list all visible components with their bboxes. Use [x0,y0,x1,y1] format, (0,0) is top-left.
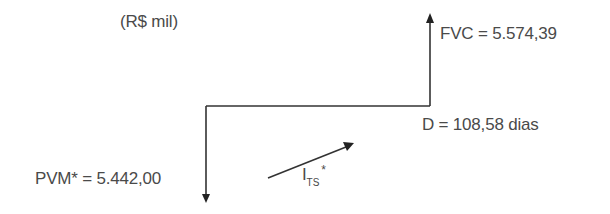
rate-subscript: TS [307,177,320,188]
duration-label: D = 108,58 dias [422,116,539,133]
rate-superscript: * [321,163,325,177]
present-value-label: PVM* = 5.442,00 [35,170,161,187]
cash-flow-diagram: (R$ mil) FVC = 5.574,39 D = 108,58 dias … [0,0,610,214]
rate-label: ITS* [302,166,326,183]
rate-main: I [302,165,307,184]
unit-label: (R$ mil) [120,13,178,30]
future-value-label: FVC = 5.574,39 [440,25,557,42]
fvc-arrow-head-icon [426,13,434,23]
pvm-arrow-head-icon [202,194,210,203]
rate-arrow-head-icon [343,142,354,151]
